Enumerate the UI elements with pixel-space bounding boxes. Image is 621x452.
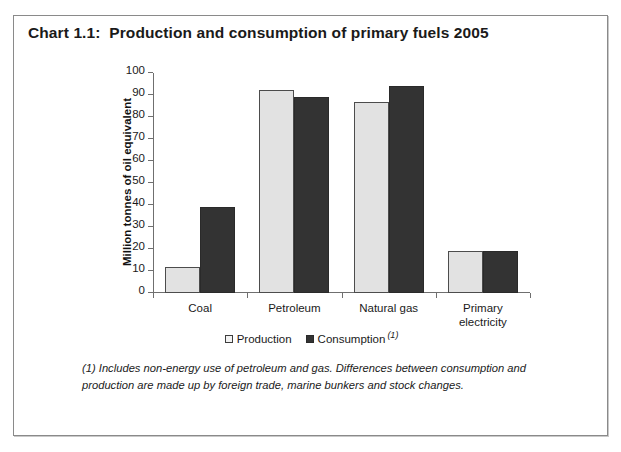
bar-natural-gas-consumption [389,86,424,293]
y-tick: 40 [153,204,154,205]
y-tick: 90 [153,94,154,95]
chart-footnote: (1) Includes non-energy use of petroleum… [82,360,542,394]
legend-label: Production [237,333,292,345]
y-tick-mark [148,138,153,139]
y-tick: 30 [153,226,154,227]
x-axis-label-line: Natural gas [342,301,436,315]
y-tick-label: 10 [105,262,145,274]
bar-primary-electricity-consumption [483,251,518,293]
legend-swatch-icon [225,335,233,343]
x-axis-label-line: Petroleum [247,301,341,315]
x-axis-label: Coal [153,301,247,315]
y-axis-line [153,73,154,294]
y-tick-label: 100 [105,64,145,76]
bar-group [165,73,235,293]
y-tick-mark [148,182,153,183]
bar-primary-electricity-production [448,251,483,293]
y-tick-mark [148,116,153,117]
bar-petroleum-consumption [294,97,329,293]
y-tick-label: 80 [105,108,145,120]
legend-item-consumption: Consumption(1) [306,330,399,345]
plot-wrapper: Million tonnes of oil equivalent 0102030… [14,16,609,437]
x-axis-label: Natural gas [342,301,436,315]
legend-label: Consumption [318,333,386,345]
chart-page: Chart 1.1: Production and consumption of… [0,0,621,452]
y-tick-label: 50 [105,174,145,186]
bar-group [448,73,518,293]
legend-swatch-icon [306,335,314,343]
chart-legend: ProductionConsumption(1) [14,330,609,345]
y-tick-label: 90 [105,86,145,98]
y-tick: 10 [153,270,154,271]
y-tick-mark [148,248,153,249]
y-tick: 80 [153,116,154,117]
x-tick-mark [530,293,531,298]
y-tick-mark [148,204,153,205]
x-axis-label-line: electricity [436,315,530,329]
x-tick-mark [436,293,437,298]
x-axis-label-line: Primary [436,301,530,315]
y-tick-mark [148,226,153,227]
y-tick-label: 0 [105,284,145,296]
x-axis-label: Primaryelectricity [436,301,530,329]
legend-item-production: Production [225,333,292,345]
y-tick: 70 [153,138,154,139]
y-tick-label: 60 [105,152,145,164]
legend-footnote-marker: (1) [387,330,398,340]
bar-petroleum-production [259,90,294,294]
y-tick-mark [148,94,153,95]
x-tick-mark [342,293,343,298]
bar-coal-consumption [200,207,235,293]
y-tick-label: 30 [105,218,145,230]
y-tick-mark [148,72,153,73]
bar-group [259,73,329,293]
bar-natural-gas-production [354,102,389,293]
x-tick-mark [247,293,248,298]
y-tick: 100 [153,72,154,73]
bar-group [354,73,424,293]
y-tick: 50 [153,182,154,183]
y-tick-label: 20 [105,240,145,252]
chart-frame: Chart 1.1: Production and consumption of… [13,15,608,436]
y-tick: 60 [153,160,154,161]
y-tick-label: 70 [105,130,145,142]
y-tick-mark [148,160,153,161]
x-tick-mark [153,293,154,298]
y-tick: 20 [153,248,154,249]
bar-coal-production [165,267,200,293]
plot-area: 0102030405060708090100 CoalPetroleumNatu… [153,73,530,293]
y-tick-mark [148,270,153,271]
x-axis-label-line: Coal [153,301,247,315]
y-tick-label: 40 [105,196,145,208]
x-axis-label: Petroleum [247,301,341,315]
